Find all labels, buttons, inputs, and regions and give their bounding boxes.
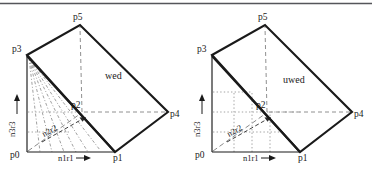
right-axis-label-n3r3: n3r3 [192, 121, 202, 137]
left-vertex-label-p3: p3 [12, 44, 22, 54]
left-axis-label-n3r3: n3r3 [7, 121, 17, 137]
right-axis-label-n2r2: n2r2 [225, 122, 243, 138]
right-vertex-label-p1: p1 [298, 153, 308, 163]
left-axis-label-n2r2: n2r2 [40, 122, 58, 138]
left-vertex-label-p1: p1 [113, 153, 123, 163]
panel-right-uwed: p0 p1 p2 p3 p4 p5 uwed n1r1 n2r2 n3r3 [192, 12, 364, 163]
wedge-figure: p0 p1 p2 p3 p4 p5 wed n1r1 n2r2 n3r3 [0, 0, 372, 172]
left-vertex-label-p2: p2 [71, 100, 81, 110]
panel-left-wed: p0 p1 p2 p3 p4 p5 wed n1r1 n2r2 n3r3 [7, 12, 180, 163]
figure-canvas: p0 p1 p2 p3 p4 p5 wed n1r1 n2r2 n3r3 [0, 0, 372, 172]
right-axis-label-n1r1: n1r1 [243, 153, 259, 163]
left-radiating-fan [29, 58, 100, 152]
right-vertex-label-p0: p0 [195, 150, 205, 160]
left-vertex-label-p5: p5 [73, 12, 83, 22]
left-n1r1-arrow [76, 155, 91, 161]
left-n3r3-arrow [14, 94, 20, 114]
right-vertex-label-p2: p2 [256, 100, 266, 110]
right-n3r3-arrow [199, 94, 205, 114]
right-vertex-label-p3: p3 [197, 44, 207, 54]
left-vertex-label-p4: p4 [170, 109, 180, 119]
right-vertex-label-p5: p5 [258, 12, 268, 22]
right-face-label-uwed: uwed [283, 74, 305, 85]
right-n1r1-arrow [261, 155, 276, 161]
left-face-label-wed: wed [105, 70, 122, 81]
left-vertex-label-p0: p0 [10, 150, 20, 160]
left-axis-label-n1r1: n1r1 [58, 153, 74, 163]
right-vertex-label-p4: p4 [354, 109, 364, 119]
